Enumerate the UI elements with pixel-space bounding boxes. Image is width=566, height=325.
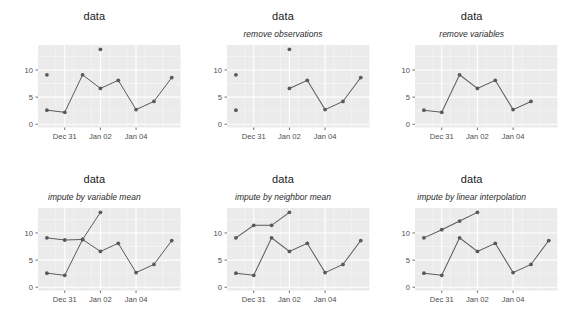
series-point [422,235,426,239]
x-axis-tick-label: Dec 31 [53,294,77,303]
series-point [252,223,256,227]
series-point [287,47,291,51]
x-axis-tick-label: Jan 02 [89,294,112,303]
series-point [99,210,103,214]
x-axis-tick-label: Jan 02 [466,132,489,141]
series-point [422,108,426,112]
x-axis-tick-label: Dec 31 [241,132,265,141]
x-axis-tick-label: Jan 02 [89,132,112,141]
series-point [422,271,426,275]
x-axis-tick-label: Jan 02 [278,132,301,141]
series-point [323,108,327,112]
panel-impute-neighbor-mean: data impute by neighbor mean 0510Dec 31J… [189,163,378,325]
series-point [305,241,309,245]
series-point [170,76,174,80]
y-axis-tick-label: 10 [213,228,221,237]
y-axis-tick-label: 5 [29,255,33,264]
y-axis-tick-label: 0 [217,282,221,291]
series-point [269,223,273,227]
plot-area: 0510Dec 31Jan 02Jan 04 [377,0,566,163]
y-axis-tick-label: 5 [29,93,33,102]
series-point [63,238,67,242]
series-point [152,262,156,266]
series-point [152,100,156,104]
y-axis-tick-label: 10 [213,66,221,75]
y-axis-tick-label: 5 [406,255,410,264]
series-point [287,87,291,91]
series-point [476,87,480,91]
series-point [323,270,327,274]
series-point [359,238,363,242]
panel-remove-variables: data remove variables 0510Dec 31Jan 02Ja… [377,0,566,163]
y-axis-tick-label: 10 [402,66,410,75]
series-point [45,235,49,239]
y-axis-tick-label: 5 [406,93,410,102]
series-point [234,73,238,77]
series-point [287,210,291,214]
series-point [440,110,444,114]
x-axis-tick-label: Jan 04 [502,132,525,141]
series-point [512,108,516,112]
series-point [305,78,309,82]
series-point [476,249,480,253]
series-point [99,249,103,253]
series-point [45,73,49,77]
series-point [99,87,103,91]
y-axis-tick-label: 0 [406,120,410,129]
plot-area: 0510Dec 31Jan 02Jan 04 [189,163,378,325]
y-axis-tick-label: 10 [402,228,410,237]
y-axis-tick-label: 0 [217,120,221,129]
x-axis-tick-label: Jan 04 [502,295,525,304]
series-point [458,235,462,239]
series-point [81,73,85,77]
x-axis-tick-label: Jan 04 [313,295,336,304]
y-axis-tick-label: 0 [406,282,410,291]
series-point [512,270,516,274]
series-point [234,271,238,275]
series-point [45,108,49,112]
x-axis-tick-label: Jan 02 [278,295,301,304]
series-point [63,273,67,277]
series-point [234,235,238,239]
series-point [440,273,444,277]
series-point [287,249,291,253]
y-axis-tick-label: 0 [29,120,33,129]
panel-impute-linear-interp: data impute by linear interpolation 0510… [377,163,566,325]
series-point [359,76,363,80]
series-point [547,238,551,242]
x-axis-tick-label: Dec 31 [430,132,454,141]
series-point [116,241,120,245]
plot-area: 0510Dec 31Jan 02Jan 04 [189,0,378,163]
x-axis-tick-label: Jan 04 [313,132,336,141]
x-axis-tick-label: Jan 04 [125,294,148,303]
y-axis-tick-label: 0 [29,282,33,291]
series-point [134,270,138,274]
series-point [458,73,462,77]
x-axis-tick-label: Dec 31 [53,132,77,141]
plot-area: 0510Dec 31Jan 02Jan 04 [0,0,189,163]
panel-data-original: data 0510Dec 31Jan 02Jan 04 [0,0,189,163]
plot-grid: data 0510Dec 31Jan 02Jan 04 data remove … [0,0,566,325]
y-axis-tick-label: 5 [217,93,221,102]
series-point [81,237,85,241]
series-point [458,219,462,223]
x-axis-tick-label: Jan 04 [125,132,148,141]
x-axis-tick-label: Dec 31 [241,295,265,304]
series-point [134,108,138,112]
series-point [63,110,67,114]
series-point [45,271,49,275]
series-point [116,78,120,82]
series-point [234,108,238,112]
plot-area: 0510Dec 31Jan 02Jan 04 [0,163,189,325]
panel-impute-variable-mean: data impute by variable mean 0510Dec 31J… [0,163,189,325]
y-axis-tick-label: 5 [217,255,221,264]
series-point [341,262,345,266]
series-point [529,100,533,104]
y-axis-tick-label: 10 [25,228,33,237]
series-point [170,238,174,242]
series-point [252,273,256,277]
plot-area: 0510Dec 31Jan 02Jan 04 [377,163,566,325]
series-point [494,78,498,82]
series-point [99,47,103,51]
series-point [529,262,533,266]
